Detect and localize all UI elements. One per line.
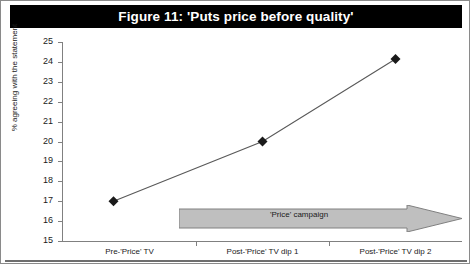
y-tick-mark [58,181,63,182]
y-tick-label: 22 [43,96,53,106]
y-tick-label: 24 [43,56,53,66]
figure-title-banner: Figure 11: 'Puts price before quality' [10,5,462,28]
y-tick-mark [58,201,63,202]
x-axis-separator [196,241,197,246]
x-tick-label-2: Post-'Price' TV dip 1 [196,247,329,256]
data-point-marker [109,196,119,206]
y-tick-label: 18 [43,175,53,185]
price-campaign-label: 'Price' campaign [179,210,419,219]
y-tick-label: 15 [43,235,53,245]
bottom-divider [5,260,467,262]
y-tick-mark [58,62,63,63]
y-tick-label: 25 [43,36,53,46]
y-tick-mark [58,82,63,83]
y-tick-label: 20 [43,136,53,146]
x-tick-label-1: Pre-'Price' TV [63,247,196,256]
x-tick-label-3: Post-'Price' TV dip 2 [329,247,462,256]
data-point-marker [258,137,268,147]
y-tick-label: 21 [43,116,53,126]
page-title: Figure 11: 'Puts price before quality' [118,9,353,24]
y-tick-label: 16 [43,215,53,225]
y-tick-label: 17 [43,195,53,205]
x-axis-separator [329,241,330,246]
figure-container: Figure 11: 'Puts price before quality' %… [0,0,470,264]
y-tick-mark [58,42,63,43]
y-tick-mark [58,122,63,123]
y-tick-label: 23 [43,76,53,86]
y-tick-mark [58,102,63,103]
x-axis-line [62,241,462,242]
y-axis-title: % agreeing with the statement [10,0,19,168]
y-tick-mark [58,161,63,162]
data-point-marker [391,54,401,64]
y-tick-label: 19 [43,155,53,165]
y-tick-mark [58,142,63,143]
y-tick-mark [58,241,63,242]
y-tick-mark [58,221,63,222]
series-line [114,59,396,201]
